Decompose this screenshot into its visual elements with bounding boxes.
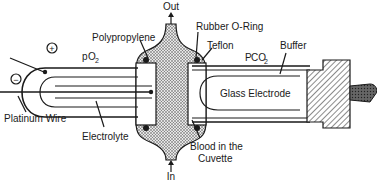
blood-label-line2: Cuvette (198, 153, 233, 164)
plus-terminal-icon: + (47, 43, 57, 54)
left-bottom-o-ring (143, 125, 149, 131)
left-electrode-port (136, 63, 156, 125)
buffer-leader (280, 53, 286, 74)
pco2-label: P CO 2 (245, 52, 268, 65)
teflon-label: Teflon (207, 40, 234, 51)
in-label: In (167, 171, 175, 180)
blood-gas-diagram: + − Out In Polypropylene Rubber O-Ring T… (0, 0, 377, 180)
rubber-o-ring-label: Rubber O-Ring (196, 21, 263, 32)
pco2-label-sub2: 2 (264, 58, 268, 65)
minus-symbol: − (13, 75, 18, 85)
glass-electrode-label: Glass Electrode (220, 88, 291, 99)
po2-tip-dot (149, 90, 153, 94)
polypropylene-label: Polypropylene (92, 32, 156, 43)
blood-label-line1: Blood in the (190, 141, 243, 152)
minus-terminal-icon: − (11, 74, 21, 85)
electrode-cable (350, 84, 377, 102)
electrolyte-leader (96, 101, 104, 127)
out-arrow-icon (168, 12, 174, 24)
right-electrode-port (188, 63, 206, 125)
buffer-label: Buffer (280, 40, 307, 51)
platinum-wire-label: Platinum Wire (4, 113, 67, 124)
anode-leader (10, 58, 44, 72)
po2-label-sub2: 2 (95, 57, 99, 64)
right-top-o-ring (194, 57, 200, 63)
po2-label: p O 2 (82, 51, 99, 64)
plus-symbol: + (49, 44, 54, 54)
out-label: Out (163, 1, 179, 12)
electrolyte-label: Electrolyte (82, 131, 129, 142)
electrode-connector-cap (307, 60, 350, 128)
